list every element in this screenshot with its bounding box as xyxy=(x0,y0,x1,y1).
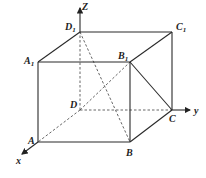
edge-D1-A1 xyxy=(38,32,80,62)
vertex-label-C: C xyxy=(169,113,176,124)
cube-diagram: ABCDA1B1C1D1Zyx xyxy=(0,0,206,178)
edge-B-C xyxy=(130,110,172,142)
vertex-label-A1: A1 xyxy=(23,55,34,68)
vertex-label-A: A xyxy=(27,135,35,146)
edge-B1-C xyxy=(130,62,172,110)
coordinate-axes xyxy=(22,8,190,154)
vertex-label-D: D xyxy=(69,99,77,110)
edge-D1-B xyxy=(80,32,130,142)
axis-label-y: y xyxy=(193,105,199,116)
axis-label-z: Z xyxy=(81,1,88,12)
axis-label-x: x xyxy=(15,155,21,166)
vertex-label-C1: C1 xyxy=(176,21,186,34)
vertex-label-B: B xyxy=(125,147,133,158)
vertex-label-D1: D1 xyxy=(64,21,76,34)
edge-B1-C1 xyxy=(130,32,172,62)
edge-D-A xyxy=(38,110,80,142)
vertex-label-B1: B1 xyxy=(117,50,128,63)
